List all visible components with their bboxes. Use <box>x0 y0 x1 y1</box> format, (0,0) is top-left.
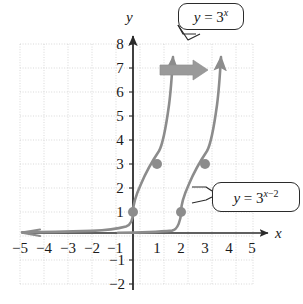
callout-tail-gx <box>192 187 212 203</box>
curve-y-equals-3-to-the-x <box>22 57 173 232</box>
callout-fx-lhs: y <box>194 9 201 25</box>
ytick-6: 6 <box>113 85 127 100</box>
ytick-7: 7 <box>113 61 127 76</box>
callout-fx-base: 3 <box>216 9 224 25</box>
callout-fx-eq: = <box>204 9 212 25</box>
xtick-4: 4 <box>223 241 235 256</box>
ytick-2: 2 <box>113 181 127 196</box>
point-3-3 <box>200 159 210 169</box>
callout-gx-exponent-const: 2 <box>274 188 279 199</box>
callout-fx-exponent: x <box>224 7 228 18</box>
ytick-minus-1: −1 <box>106 253 128 268</box>
xtick-minus-4: −4 <box>33 241 55 256</box>
ytick-8: 8 <box>113 37 127 52</box>
point-2-1 <box>176 207 186 217</box>
point-0-1 <box>128 207 138 217</box>
xtick-minus-3: −3 <box>57 241 79 256</box>
ytick-3: 3 <box>113 157 127 172</box>
ytick-1: 1 <box>113 205 127 220</box>
x-axis-label: x <box>275 226 282 241</box>
y-axis-label: y <box>126 10 133 25</box>
translation-arrow <box>160 60 208 80</box>
xtick-minus-2: −2 <box>81 241 103 256</box>
graph-figure: −5 −4 −3 −2 −1 1 2 3 4 5 8 7 6 5 4 3 2 1… <box>0 0 303 304</box>
xtick-2: 2 <box>175 241 187 256</box>
ytick-minus-2: −2 <box>106 277 128 292</box>
xtick-3: 3 <box>199 241 211 256</box>
callout-gx-lhs: y <box>233 190 240 206</box>
point-1-3 <box>152 159 162 169</box>
plot-canvas <box>0 0 303 304</box>
xtick-minus-5: −5 <box>9 241 31 256</box>
callout-gx-base: 3 <box>256 190 264 206</box>
callout-y-equals-3-to-the-x: y = 3x <box>178 3 244 30</box>
xtick-5: 5 <box>246 241 258 256</box>
callout-y-equals-3-to-the-x-minus-2: y = 3x−2 <box>212 182 300 212</box>
xtick-1: 1 <box>151 241 163 256</box>
ytick-5: 5 <box>113 109 127 124</box>
callout-gx-eq: = <box>244 190 252 206</box>
ytick-4: 4 <box>113 133 127 148</box>
